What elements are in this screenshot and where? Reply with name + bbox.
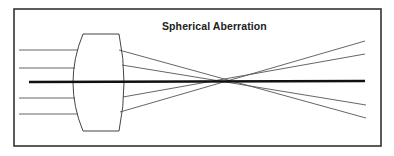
optical-axis [29, 81, 365, 82]
outgoing-rays [119, 41, 366, 118]
outgoing-ray-2 [122, 65, 366, 105]
outgoing-ray-3 [123, 54, 365, 97]
outgoing-ray-4 [120, 41, 365, 112]
diagram-title: Spherical Aberration [162, 20, 267, 32]
